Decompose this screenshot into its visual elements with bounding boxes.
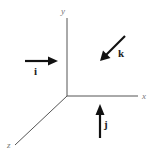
- z-axis-label: z: [6, 140, 11, 150]
- axes: y x z: [6, 6, 146, 150]
- vector-j-label: j: [103, 118, 108, 130]
- vector-i: i: [25, 57, 58, 78]
- y-axis-label: y: [60, 6, 65, 16]
- vector-i-arrowhead: [48, 57, 58, 66]
- vector-k: k: [100, 36, 125, 61]
- vector-i-label: i: [34, 65, 37, 77]
- vector-j-arrowhead: [96, 104, 105, 115]
- vector-j: j: [96, 104, 108, 138]
- vector-k-label: k: [118, 47, 125, 59]
- x-axis-label: x: [141, 91, 146, 101]
- z-axis: [15, 96, 67, 145]
- vector-diagram: y x z i k j: [0, 0, 157, 153]
